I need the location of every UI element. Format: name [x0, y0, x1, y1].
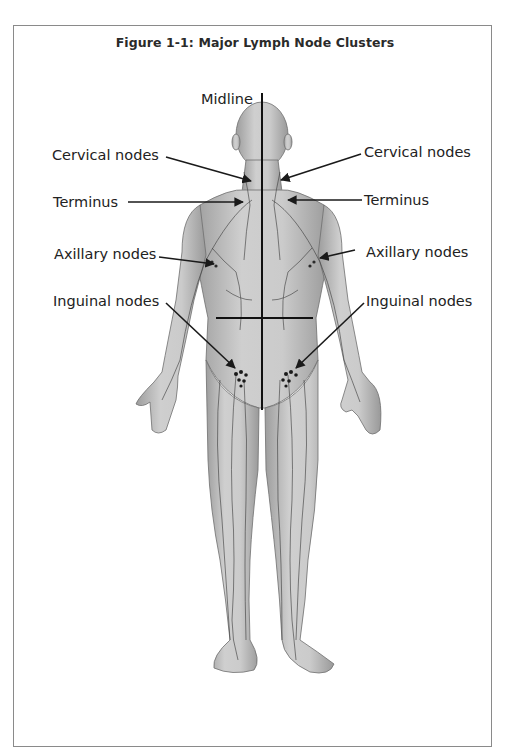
label-axillary-nodes-left: Axillary nodes — [54, 246, 156, 262]
body-silhouette — [136, 102, 381, 673]
label-axillary-nodes-right: Axillary nodes — [366, 244, 468, 260]
label-inguinal-nodes-left: Inguinal nodes — [53, 293, 159, 309]
label-cervical-nodes-right: Cervical nodes — [364, 144, 471, 160]
label-terminus-right: Terminus — [364, 192, 429, 208]
lymph-body-illustration — [0, 0, 510, 753]
label-cervical-nodes-left: Cervical nodes — [52, 147, 159, 163]
label-terminus-left: Terminus — [53, 194, 118, 210]
arrow-cervical-right — [281, 154, 361, 180]
label-inguinal-nodes-right: Inguinal nodes — [366, 293, 472, 309]
label-midline: Midline — [201, 91, 253, 107]
arrow-cervical-left — [166, 157, 251, 181]
